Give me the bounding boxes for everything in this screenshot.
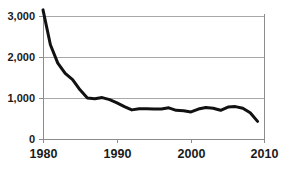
x-axis-label-1990: 1990 bbox=[90, 148, 145, 161]
line-chart: 3,000 2,000 1,000 0 1980 1990 2000 2010 bbox=[0, 0, 291, 175]
plot-background bbox=[43, 16, 265, 139]
y-axis-label-0: 0 bbox=[0, 134, 35, 145]
y-axis-label-2000: 2,000 bbox=[0, 52, 35, 63]
x-axis-label-1980: 1980 bbox=[16, 148, 71, 161]
y-tick-marks bbox=[39, 17, 43, 140]
y-axis-label-3000: 3,000 bbox=[0, 11, 35, 22]
x-tick-marks bbox=[44, 140, 265, 144]
x-axis-label-2010: 2010 bbox=[237, 148, 291, 161]
x-axis-label-2000: 2000 bbox=[164, 148, 219, 161]
y-axis-label-1000: 1,000 bbox=[0, 93, 35, 104]
